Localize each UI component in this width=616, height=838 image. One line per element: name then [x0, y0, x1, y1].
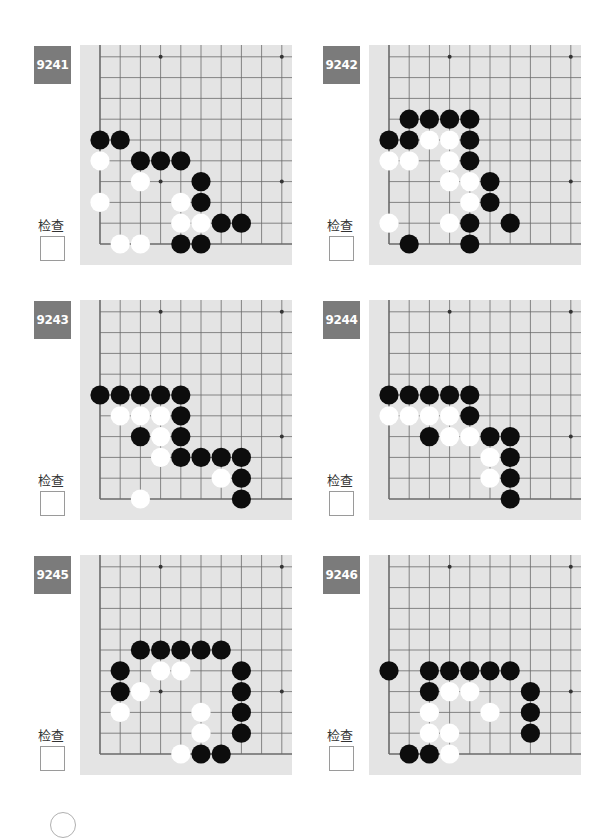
white-stone: [191, 724, 210, 743]
white-stone: [111, 234, 130, 253]
black-stone: [440, 661, 459, 680]
white-stone: [111, 406, 130, 425]
white-stone: [440, 724, 459, 743]
white-stone: [440, 744, 459, 763]
white-stone: [440, 151, 459, 170]
black-stone: [400, 385, 419, 404]
black-stone: [111, 130, 130, 149]
star-point: [280, 435, 284, 439]
white-stone: [400, 406, 419, 425]
go-board[interactable]: [369, 555, 581, 775]
check-label: 检查: [327, 470, 353, 489]
star-point: [280, 180, 284, 184]
go-board[interactable]: [80, 45, 292, 265]
black-stone: [212, 214, 231, 233]
star-point: [569, 180, 573, 184]
black-stone: [480, 193, 499, 212]
black-stone: [440, 385, 459, 404]
black-stone: [379, 661, 398, 680]
white-stone: [440, 682, 459, 701]
white-stone: [90, 151, 109, 170]
black-stone: [460, 214, 479, 233]
check-answer-box[interactable]: [329, 746, 354, 771]
star-point: [569, 435, 573, 439]
go-board[interactable]: [369, 45, 581, 265]
go-board[interactable]: [80, 555, 292, 775]
white-stone: [111, 703, 130, 722]
star-point: [569, 310, 573, 314]
black-stone: [171, 385, 190, 404]
black-stone: [131, 151, 150, 170]
star-point: [448, 55, 452, 59]
go-board[interactable]: [369, 300, 581, 520]
page-number-circle: [50, 812, 76, 838]
black-stone: [501, 469, 520, 488]
black-stone: [379, 385, 398, 404]
board-grid: [369, 300, 581, 520]
white-stone: [420, 703, 439, 722]
white-stone: [191, 214, 210, 233]
black-stone: [521, 682, 540, 701]
white-stone: [171, 214, 190, 233]
white-stone: [460, 172, 479, 191]
white-stone: [440, 214, 459, 233]
white-stone: [400, 151, 419, 170]
star-point: [280, 310, 284, 314]
black-stone: [131, 385, 150, 404]
black-stone: [400, 234, 419, 253]
white-stone: [480, 703, 499, 722]
check-answer-box[interactable]: [329, 236, 354, 261]
black-stone: [440, 110, 459, 129]
white-stone: [171, 661, 190, 680]
black-stone: [501, 214, 520, 233]
check-answer-box[interactable]: [40, 746, 65, 771]
black-stone: [191, 448, 210, 467]
white-stone: [191, 703, 210, 722]
black-stone: [171, 406, 190, 425]
white-stone: [480, 448, 499, 467]
check-answer-box[interactable]: [329, 491, 354, 516]
problem-9242: 9242检查: [323, 45, 583, 267]
white-stone: [90, 193, 109, 212]
check-answer-box[interactable]: [40, 491, 65, 516]
white-stone: [379, 151, 398, 170]
board-grid: [80, 45, 292, 265]
black-stone: [171, 448, 190, 467]
black-stone: [171, 427, 190, 446]
star-point: [448, 310, 452, 314]
black-stone: [111, 661, 130, 680]
star-point: [569, 690, 573, 694]
star-point: [280, 690, 284, 694]
check-label: 检查: [38, 470, 64, 489]
white-stone: [171, 744, 190, 763]
black-stone: [480, 172, 499, 191]
problem-9246: 9246检查: [323, 555, 583, 777]
star-point: [159, 310, 163, 314]
black-stone: [400, 744, 419, 763]
problem-9245: 9245检查: [34, 555, 294, 777]
problem-number-badge: 9241: [34, 46, 71, 84]
star-point: [159, 55, 163, 59]
check-answer-box[interactable]: [40, 236, 65, 261]
star-point: [159, 565, 163, 569]
black-stone: [151, 640, 170, 659]
white-stone: [440, 172, 459, 191]
board-grid: [80, 300, 292, 520]
black-stone: [501, 427, 520, 446]
black-stone: [232, 703, 251, 722]
board-grid: [369, 555, 581, 775]
black-stone: [460, 385, 479, 404]
white-stone: [379, 214, 398, 233]
black-stone: [460, 406, 479, 425]
problem-number-badge: 9242: [323, 46, 360, 84]
black-stone: [212, 448, 231, 467]
black-stone: [151, 385, 170, 404]
black-stone: [501, 489, 520, 508]
black-stone: [212, 640, 231, 659]
go-board[interactable]: [80, 300, 292, 520]
white-stone: [440, 130, 459, 149]
black-stone: [212, 744, 231, 763]
black-stone: [232, 682, 251, 701]
board-grid: [369, 45, 581, 265]
white-stone: [131, 489, 150, 508]
